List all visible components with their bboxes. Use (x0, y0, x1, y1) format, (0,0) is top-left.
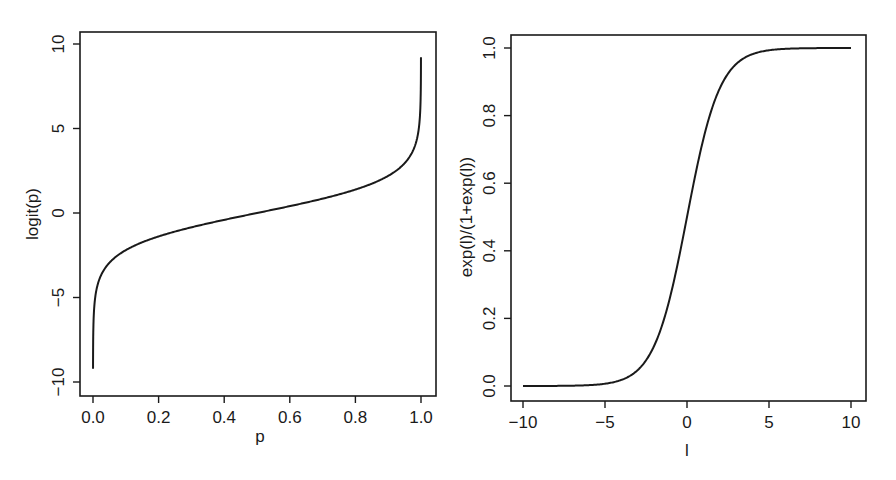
sigmoid-y-axis-title: exp(l)/(1+exp(l)) (457, 157, 476, 277)
y-tick-label: −10 (49, 368, 68, 397)
x-tick-label: 0 (682, 413, 691, 432)
x-tick-label: −5 (595, 413, 614, 432)
y-tick-label: 0 (49, 208, 68, 217)
logit-plot-panel: −10−50510 0.00.20.40.60.81.0 p logit(p) (0, 0, 448, 480)
y-tick-label: 0.8 (480, 104, 499, 128)
y-tick-label: 0.6 (480, 171, 499, 195)
logit-plot-frame (80, 32, 436, 396)
y-tick-label: 10 (49, 35, 68, 54)
x-tick-label: 0.0 (81, 408, 105, 427)
x-tick-label: 1.0 (409, 408, 433, 427)
sigmoid-y-axis: 0.00.20.40.60.81.0 (480, 36, 511, 398)
logit-x-axis-title: p (255, 427, 264, 446)
logit-x-axis: 0.00.20.40.60.81.0 (81, 396, 433, 427)
logit-y-axis-title: logit(p) (23, 188, 42, 240)
logit-y-axis: −10−50510 (49, 35, 80, 397)
logit-curve (93, 57, 421, 368)
logit-plot: −10−50510 0.00.20.40.60.81.0 p logit(p) (0, 0, 448, 480)
sigmoid-x-axis: −10−50510 (509, 401, 861, 432)
x-tick-label: −10 (509, 413, 538, 432)
x-tick-label: 0.4 (212, 408, 236, 427)
x-tick-label: 10 (842, 413, 861, 432)
x-tick-label: 0.8 (344, 408, 368, 427)
x-tick-label: 0.6 (278, 408, 302, 427)
y-tick-label: 0.4 (480, 239, 499, 263)
x-tick-label: 5 (764, 413, 773, 432)
y-tick-label: 5 (49, 124, 68, 133)
y-tick-label: 0.2 (480, 307, 499, 331)
sigmoid-plot-panel: 0.00.20.40.60.81.0 −10−50510 l exp(l)/(1… (448, 0, 896, 480)
sigmoid-curve (523, 48, 851, 386)
sigmoid-plot: 0.00.20.40.60.81.0 −10−50510 l exp(l)/(1… (448, 0, 896, 480)
y-tick-label: −5 (49, 288, 68, 307)
sigmoid-x-axis-title: l (685, 441, 689, 460)
sigmoid-plot-frame (511, 35, 866, 401)
x-tick-label: 0.2 (147, 408, 171, 427)
y-tick-label: 1.0 (480, 36, 499, 60)
y-tick-label: 0.0 (480, 374, 499, 398)
